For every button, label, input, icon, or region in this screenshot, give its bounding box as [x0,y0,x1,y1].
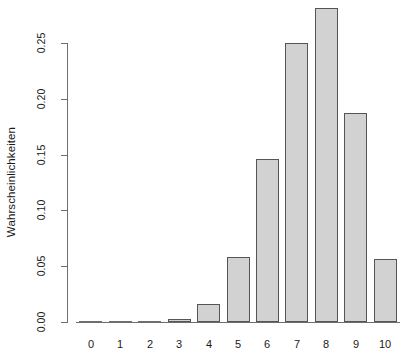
y-tick-label: 0.00 [34,305,48,339]
bar-7 [285,43,308,322]
y-tick-label: 0.05 [34,249,48,283]
bar-8 [315,8,338,322]
x-tick-label-8: 8 [311,338,341,350]
y-tick-mark [61,210,67,211]
y-tick-label: 0.20 [34,82,48,116]
bar-9 [344,113,367,323]
y-tick-mark [61,99,67,100]
bar-2 [138,321,161,323]
y-tick-mark [61,155,67,156]
x-tick-label-10: 10 [370,338,400,350]
x-tick-label-4: 4 [194,338,224,350]
x-tick-label-1: 1 [105,338,135,350]
bar-3 [168,319,191,323]
x-tick-label-0: 0 [76,338,106,350]
x-tick-label-6: 6 [252,338,282,350]
y-tick-label: 0.25 [34,26,48,60]
bar-0 [79,321,102,323]
bar-5 [227,257,250,322]
x-tick-label-9: 9 [341,338,371,350]
y-tick-label: 0.10 [34,193,48,227]
bar-chart: Wahrscheinlichkeiten 0.000.050.100.150.2… [0,0,407,364]
y-tick-mark [61,43,67,44]
y-tick-mark [61,266,67,267]
bar-6 [256,159,279,322]
x-tick-label-2: 2 [135,338,165,350]
y-tick-label: 0.15 [34,138,48,172]
bar-10 [374,259,397,322]
x-tick-label-3: 3 [164,338,194,350]
bar-4 [197,304,220,322]
x-axis-baseline [76,322,400,323]
x-tick-label-5: 5 [223,338,253,350]
bar-1 [109,321,132,323]
x-tick-label-7: 7 [282,338,312,350]
y-axis-title: Wahrscheinlichkeiten [0,0,22,364]
y-tick-mark [61,322,67,323]
y-axis-line [67,43,68,323]
